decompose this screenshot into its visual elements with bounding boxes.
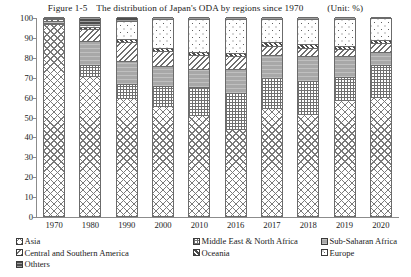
figure-title: Figure 1-5The distribution of Japan's OD…	[0, 3, 411, 13]
bar-segment-oceania	[262, 42, 282, 46]
y-axis-tick-mark	[33, 58, 36, 59]
legend-row-3: Othters	[16, 259, 411, 271]
stacked-bar[interactable]	[43, 18, 65, 217]
bar-segment-asia	[298, 115, 318, 216]
y-axis-tick-label: 50	[24, 113, 33, 123]
bar-segment-others	[80, 17, 100, 25]
x-axis-tick-label: 2019	[336, 220, 353, 230]
stacked-bar[interactable]	[297, 18, 319, 217]
y-axis-tick-mark	[33, 197, 36, 198]
y-axis-tick-label: 40	[24, 132, 33, 142]
stacked-bar[interactable]	[152, 18, 174, 217]
bar-segment-oceania	[153, 48, 173, 51]
bar-segment-csa	[298, 48, 318, 56]
bar-segment-oceania	[80, 27, 100, 29]
bar-segment-europe	[335, 19, 355, 46]
x-axis-tick-label: 2017	[263, 220, 280, 230]
y-axis-tick-label: 30	[24, 152, 33, 162]
bar-segment-asia	[189, 116, 209, 216]
stacked-bar[interactable]	[188, 18, 210, 217]
y-axis-tick-mark	[33, 18, 36, 19]
bar-segment-ssa	[262, 55, 282, 78]
y-axis-tick-mark	[33, 137, 36, 138]
bar-segment-oceania	[117, 39, 137, 42]
y-axis-tick-mark	[33, 38, 36, 39]
legend-item-mena: Middle East & North Africa	[193, 236, 298, 246]
x-axis-tick-label: 2020	[372, 220, 389, 230]
stacked-bar[interactable]	[225, 18, 247, 217]
bar-segment-europe	[298, 19, 318, 44]
bar-segment-mena	[153, 86, 173, 107]
legend-row-2: Central and Southern America Oceania Eur…	[16, 248, 411, 260]
bar-segment-oceania	[335, 46, 355, 49]
bar-segment-ssa	[44, 21, 64, 23]
y-axis-tick-label: 20	[24, 172, 33, 182]
bar-segment-others	[262, 17, 282, 19]
bar-segment-csa	[153, 51, 173, 66]
x-axis-tick-label: 2010	[191, 220, 208, 230]
figure-title-text: The distribution of Japan's ODA by regio…	[96, 3, 303, 13]
bar-segment-ssa	[335, 56, 355, 77]
bar-segment-ssa	[298, 56, 318, 81]
bar-segment-europe	[153, 19, 173, 48]
legend-label-asia: Asia	[25, 236, 41, 246]
stacked-bar[interactable]	[116, 18, 138, 217]
y-axis-tick-label: 90	[24, 33, 33, 43]
figure-root: Figure 1-5The distribution of Japan's OD…	[0, 0, 411, 277]
legend-swatch-others-icon	[16, 261, 23, 268]
y-axis-tick-label: 100	[20, 13, 33, 23]
legend-swatch-ssa-icon	[321, 238, 328, 245]
y-axis-tick-mark	[33, 177, 36, 178]
stacked-bar[interactable]	[334, 18, 356, 217]
stacked-bar[interactable]	[261, 18, 283, 217]
legend-item-europe: Europe	[321, 248, 354, 258]
stacked-bar[interactable]	[370, 18, 392, 217]
y-axis-tick-mark	[33, 78, 36, 79]
figure-unit: (Unit: %)	[327, 3, 363, 13]
bar-segment-mena	[371, 65, 391, 98]
bar-segment-oceania	[298, 44, 318, 48]
bar-segment-europe	[80, 25, 100, 27]
x-axis-labels: 1970198019902000201020162017201820192020	[36, 219, 399, 233]
bar-segment-csa	[44, 19, 64, 21]
legend-item-ssa: Sub-Saharan Africa	[321, 236, 397, 246]
legend-label-europe: Europe	[330, 248, 355, 258]
x-axis-tick-label: 2016	[227, 220, 244, 230]
bar-segment-mena	[335, 77, 355, 101]
bar-segment-mena	[80, 65, 100, 77]
bar-segment-mena	[44, 23, 64, 25]
y-axis-tick-mark	[33, 157, 36, 158]
bar-segment-europe	[189, 19, 209, 52]
bar-segment-csa	[371, 43, 391, 52]
bar-segment-asia	[371, 98, 391, 216]
y-axis-tick-mark	[33, 118, 36, 119]
bar-segment-csa	[226, 56, 246, 69]
y-axis-tick-label: 70	[24, 73, 33, 83]
bar-segment-others	[226, 17, 246, 19]
y-axis-tick-label: 10	[24, 192, 33, 202]
bar-segment-europe	[371, 18, 391, 40]
stacked-bar[interactable]	[79, 18, 101, 217]
bar-segment-mena	[226, 93, 246, 131]
chart-legend: Asia Middle East & North Africa Sub-Saha…	[16, 236, 411, 271]
bar-segment-ssa	[80, 41, 100, 65]
x-axis-tick-label: 2000	[154, 220, 171, 230]
bar-segment-asia	[153, 107, 173, 216]
bar-segment-ssa	[189, 69, 209, 87]
bar-segment-mena	[117, 84, 137, 99]
bar-segment-others	[117, 17, 137, 21]
bar-segment-ssa	[226, 69, 246, 93]
bar-segment-oceania	[189, 52, 209, 55]
x-axis-tick-label: 1970	[46, 220, 63, 230]
bar-segment-csa	[189, 55, 209, 69]
legend-swatch-oceania-icon	[193, 249, 200, 256]
bar-segment-europe	[117, 21, 137, 39]
bar-segment-others	[44, 17, 64, 18]
x-axis-tick-label: 1990	[118, 220, 135, 230]
legend-item-oceania: Oceania	[193, 248, 230, 258]
y-axis-tick-label: 80	[24, 53, 33, 63]
bar-segment-others	[298, 17, 318, 19]
bar-segment-europe	[262, 19, 282, 42]
bar-segment-oceania	[371, 40, 391, 43]
y-axis-tick-mark	[33, 217, 36, 218]
